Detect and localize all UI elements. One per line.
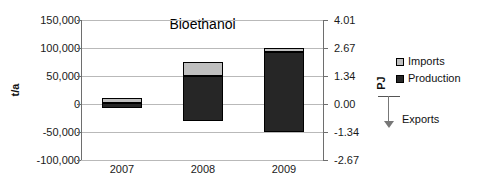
y-tick-left-1: 100,000: [40, 43, 80, 54]
bar-group-2007[interactable]: [102, 20, 142, 160]
y-tick-right-3: 0.00: [334, 99, 355, 110]
y-tick-right-2: 1.34: [334, 71, 355, 82]
legend-label-imports: Imports: [408, 56, 445, 67]
legend-item-imports[interactable]: Imports: [396, 53, 476, 70]
y-tick-right-4: -1.34: [334, 127, 359, 138]
y-tick-right-5: -2.67: [334, 155, 359, 166]
bar-group-2008[interactable]: [183, 20, 223, 160]
y-tickmark-right-3: [323, 104, 328, 105]
chart-legend: Imports Production: [396, 53, 476, 87]
y-axis-left-title: t/a: [9, 70, 21, 110]
y-tickmark-right-1: [323, 48, 328, 49]
bar-segment-production[interactable]: [264, 52, 304, 132]
x-tick-label-2008: 2008: [182, 164, 224, 175]
legend-swatch-imports-icon: [396, 58, 404, 66]
legend-swatch-production-icon: [396, 75, 404, 83]
y-tickmark-right-5: [323, 160, 328, 161]
bar-segment-imports[interactable]: [183, 62, 223, 76]
y-tickmark-left-0: [77, 20, 81, 21]
y-axis-right-title: PJ: [375, 68, 387, 98]
y-tick-right-1: 2.67: [334, 43, 355, 54]
legend-label-production: Production: [408, 73, 461, 84]
y-tickmark-left-5: [77, 160, 81, 161]
down-arrow-icon: [388, 96, 389, 122]
y-tick-left-2: 50,000: [46, 71, 80, 82]
y-tickmark-left-4: [77, 132, 81, 133]
exports-annotation: Exports: [378, 96, 474, 136]
exports-baseline-rule: [378, 96, 400, 97]
x-tick-label-2009: 2009: [263, 164, 305, 175]
bar-group-2009[interactable]: [264, 20, 304, 160]
y-tick-left-5: -100,000: [37, 155, 80, 166]
bioethanol-chart: 150,000 100,000 50,000 0 -50,000 -100,00…: [0, 0, 477, 187]
bar-segment-production[interactable]: [102, 103, 142, 109]
y-tickmark-right-2: [323, 76, 328, 77]
y-tick-right-0: 4.01: [334, 15, 355, 26]
y-tickmark-left-3: [77, 104, 81, 105]
y-axis-right-line: [323, 20, 324, 160]
exports-label: Exports: [402, 114, 439, 125]
y-tick-left-0: 150,000: [40, 15, 80, 26]
y-tickmark-right-4: [323, 132, 328, 133]
gridline-minus100000: [81, 160, 324, 161]
down-arrow-head-icon: [384, 121, 394, 128]
y-tickmark-right-0: [323, 20, 328, 21]
y-tick-left-4: -50,000: [43, 127, 80, 138]
x-tick-label-2007: 2007: [101, 164, 143, 175]
plot-area: [81, 20, 324, 160]
legend-item-production[interactable]: Production: [396, 70, 476, 87]
y-axis-left-line: [81, 20, 82, 160]
bar-segment-production[interactable]: [183, 76, 223, 121]
y-tickmark-left-2: [77, 76, 81, 77]
y-tickmark-left-1: [77, 48, 81, 49]
